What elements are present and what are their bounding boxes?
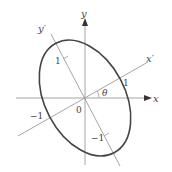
origin-label: 0 bbox=[76, 105, 82, 115]
x-neg-one-label: −1 bbox=[30, 111, 43, 121]
y-prime-one-label: 1 bbox=[55, 56, 61, 66]
y-prime-label: y′ bbox=[37, 23, 47, 34]
y-axis-arrow-icon bbox=[82, 18, 88, 26]
x-prime-label: x′ bbox=[146, 53, 155, 64]
y-prime-axis bbox=[51, 34, 120, 166]
angle-theta-label: θ bbox=[102, 88, 108, 98]
angle-arc bbox=[97, 91, 99, 98]
y-prime-neg-one-label: −1 bbox=[91, 133, 104, 143]
x-axis-arrow-icon bbox=[144, 95, 152, 101]
y-prime-tick-neg bbox=[104, 133, 109, 136]
rotated-ellipse-diagram: x y x′ y′ θ 0 −1 1 1 −1 bbox=[0, 0, 172, 172]
x-axis-label: x bbox=[153, 93, 159, 104]
y-axis-label: y bbox=[80, 8, 87, 19]
x-prime-one-label: 1 bbox=[123, 78, 129, 88]
